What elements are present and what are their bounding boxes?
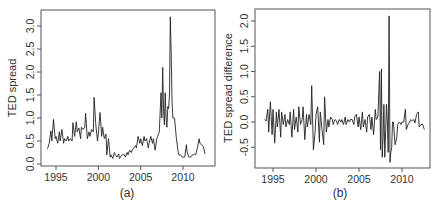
y-tick-label: 2.5 [24, 42, 36, 57]
line-series-ted-spread-difference [264, 16, 424, 163]
panel-caption-a: (a) [120, 186, 135, 200]
line-series-ted-spread [48, 17, 206, 159]
panel-caption-b: (b) [333, 186, 348, 200]
plot-frame-b [255, 9, 430, 168]
y-tick-label: 1.5 [238, 39, 250, 54]
y-tick-label: 0.0 [24, 157, 36, 172]
figure: 0.00.51.01.52.02.53.0 1995200020052010 T… [0, 0, 442, 211]
x-tick-label: 2000 [304, 173, 328, 185]
y-tick-label: 0.5 [24, 134, 36, 149]
x-tick-label: 2005 [347, 173, 371, 185]
x-tick-label: 1995 [261, 173, 285, 185]
y-tick-label: 1.0 [24, 111, 36, 126]
x-axis-b: 1995200020052010 [261, 168, 414, 185]
panel-b-ted-spread-difference: -0.50.00.51.01.52.0 1995200020052010 TED… [222, 9, 430, 200]
y-axis-label-b: TED spread difference [222, 33, 234, 143]
x-axis-a: 1995200020052010 [44, 166, 195, 183]
y-tick-label: 0.5 [238, 89, 250, 104]
x-tick-label: 2000 [87, 171, 111, 183]
y-tick-label: 3.0 [24, 19, 36, 34]
x-tick-label: 2010 [171, 171, 195, 183]
y-axis-b: -0.50.00.51.01.52.0 [238, 14, 255, 157]
y-tick-label: 1.0 [238, 64, 250, 79]
y-axis-a: 0.00.51.01.52.02.53.0 [24, 19, 41, 172]
x-tick-label: 2010 [390, 173, 414, 185]
y-tick-label: 2.0 [24, 65, 36, 80]
plot-frame-a [41, 10, 215, 166]
x-tick-label: 1995 [44, 171, 68, 183]
panel-a-ted-spread: 0.00.51.01.52.02.53.0 1995200020052010 T… [6, 10, 215, 200]
y-tick-label: 2.0 [238, 14, 250, 29]
y-tick-label: 1.5 [24, 88, 36, 103]
y-axis-label-a: TED spread [6, 59, 18, 118]
x-tick-label: 2005 [129, 171, 153, 183]
y-tick-label: 0.0 [238, 115, 250, 130]
y-tick-label: -0.5 [238, 138, 250, 156]
